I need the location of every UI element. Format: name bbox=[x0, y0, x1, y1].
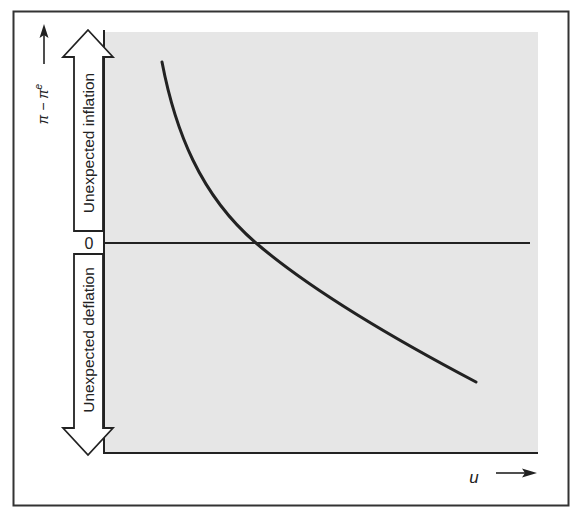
x-axis-label: u bbox=[469, 468, 479, 487]
y-tick-zero: 0 bbox=[85, 235, 94, 252]
down-arrow-label: Unexpected deflation bbox=[80, 267, 97, 413]
up-arrow-label: Unexpected inflation bbox=[80, 73, 97, 213]
y-axis-label-main: π − π bbox=[35, 89, 51, 124]
y-axis-label-sup: e bbox=[33, 83, 44, 89]
chart-figure: Unexpected inflation Unexpected deflatio… bbox=[0, 0, 573, 513]
y-axis-label: π − πe bbox=[33, 83, 51, 124]
